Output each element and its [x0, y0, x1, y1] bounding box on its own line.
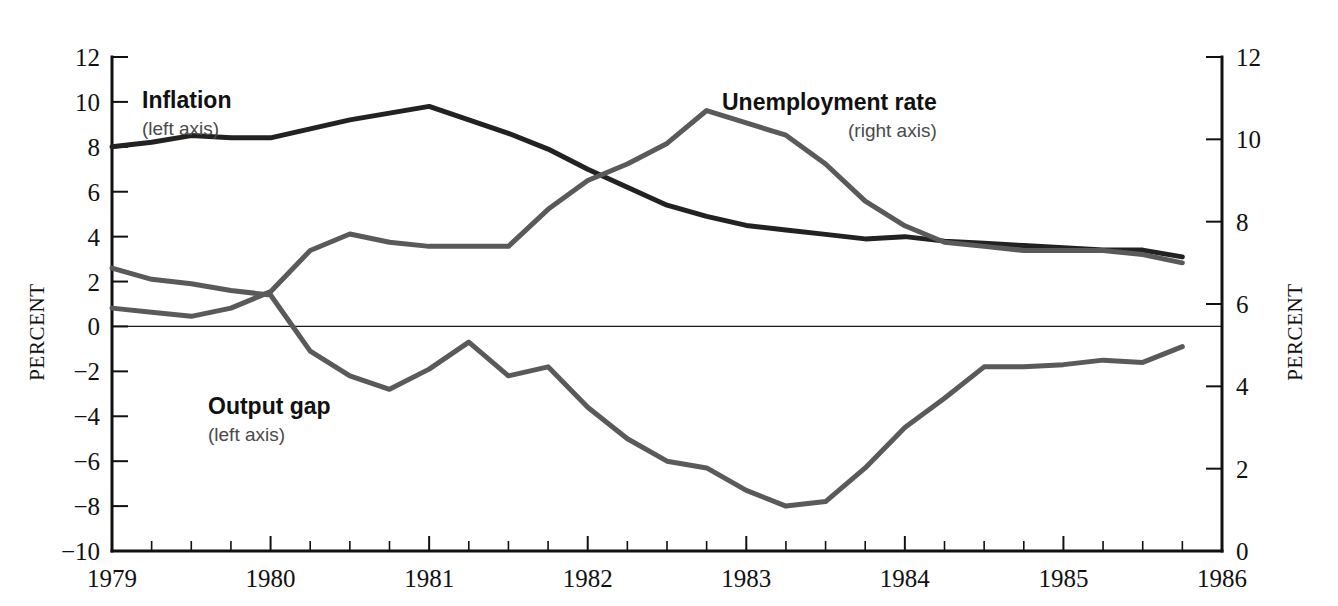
x-tick-label: 1985	[1038, 565, 1088, 592]
annotation-title-output-gap: Output gap	[208, 393, 331, 419]
y-tick-label-right: 6	[1236, 291, 1249, 318]
y-tick-label-left: 4	[88, 224, 101, 251]
y-tick-label-right: 4	[1236, 373, 1249, 400]
y-tick-label-left: −10	[61, 538, 100, 565]
annotation-title-unemployment: Unemployment rate	[722, 89, 937, 115]
economic-indicators-chart: 121086420−2−4−6−8−1012108642019791980198…	[0, 0, 1338, 606]
y-tick-label-left: 10	[75, 89, 100, 116]
y-axis-title-right: PERCENT	[1283, 283, 1307, 381]
annotation-subtitle-output-gap: (left axis)	[208, 424, 285, 445]
y-tick-label-left: 2	[88, 269, 101, 296]
y-axis-title-left: PERCENT	[25, 283, 49, 381]
annotation-subtitle-unemployment: (right axis)	[848, 120, 937, 141]
x-tick-label: 1981	[404, 565, 454, 592]
y-tick-label-left: −8	[73, 493, 100, 520]
chart-figure: 121086420−2−4−6−8−1012108642019791980198…	[0, 0, 1338, 606]
y-tick-label-right: 8	[1236, 209, 1249, 236]
x-tick-label: 1979	[87, 565, 137, 592]
y-tick-label-right: 12	[1236, 44, 1261, 71]
y-tick-label-left: −2	[73, 358, 100, 385]
x-tick-label: 1984	[880, 565, 931, 592]
x-tick-label: 1980	[246, 565, 296, 592]
annotation-subtitle-inflation: (left axis)	[142, 118, 219, 139]
y-tick-label-left: 0	[88, 313, 101, 340]
x-tick-label: 1986	[1197, 565, 1247, 592]
y-tick-label-left: 6	[88, 179, 101, 206]
y-tick-label-left: 12	[75, 44, 100, 71]
y-tick-label-left: −4	[73, 403, 100, 430]
y-tick-label-right: 0	[1236, 538, 1249, 565]
y-tick-label-right: 2	[1236, 456, 1249, 483]
y-tick-label-left: 8	[88, 134, 101, 161]
annotation-title-inflation: Inflation	[142, 87, 231, 113]
y-tick-label-right: 10	[1236, 126, 1261, 153]
y-tick-label-left: −6	[73, 448, 100, 475]
x-tick-label: 1982	[563, 565, 613, 592]
x-tick-label: 1983	[721, 565, 771, 592]
